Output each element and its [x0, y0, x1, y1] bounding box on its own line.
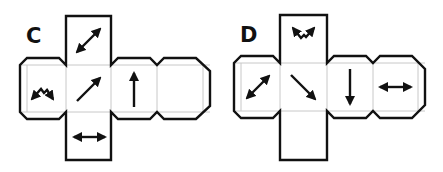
net-d-center-arrow-down-right-icon [291, 75, 315, 99]
net-d-top-inverted-caret-arrows-icon [293, 28, 314, 38]
net-c-fold-lines [20, 65, 210, 112]
net-c-top-diagonal-double-arrow-icon [77, 29, 100, 52]
cube-nets-diagram [0, 0, 443, 172]
net-c-outline [20, 16, 210, 160]
net-d [234, 15, 425, 160]
net-c-center-arrow-up-right-icon [77, 78, 100, 101]
net-c [20, 16, 210, 160]
net-d-left-diagonal-double-arrow-icon [247, 76, 269, 98]
net-c-left-caret-arrows-icon [32, 89, 53, 99]
